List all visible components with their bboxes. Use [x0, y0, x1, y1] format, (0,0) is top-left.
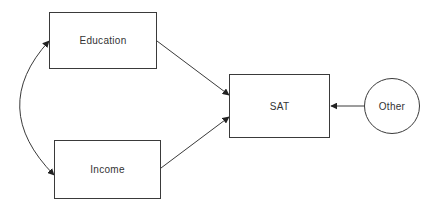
node-income: Income — [54, 140, 161, 199]
node-education: Education — [49, 12, 157, 69]
path-diagram: Education Income SAT Other — [0, 0, 437, 208]
edge-income-to-sat — [161, 117, 229, 168]
node-education-label: Education — [79, 35, 126, 46]
node-sat: SAT — [229, 74, 330, 138]
node-sat-label: SAT — [270, 101, 290, 112]
node-other: Other — [364, 78, 420, 134]
node-other-label: Other — [379, 101, 406, 112]
edge-education-to-sat — [157, 41, 229, 95]
node-income-label: Income — [90, 164, 125, 175]
